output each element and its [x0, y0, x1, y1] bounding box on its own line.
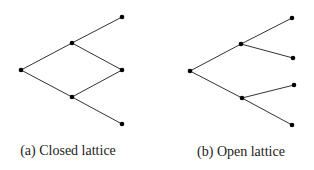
lattice-node [19, 68, 24, 73]
lattice-node [70, 41, 75, 46]
lattice-edge [72, 17, 122, 43]
lattice-node [240, 96, 245, 101]
caption-open-lattice: (b) Open lattice [197, 144, 285, 160]
lattice-edge [242, 98, 292, 125]
lattice-node [292, 83, 297, 88]
lattice-edge [72, 70, 122, 97]
lattice-edge [21, 43, 72, 70]
lattice-node [120, 68, 125, 73]
lattice-edge [241, 18, 292, 44]
lattice-node [120, 15, 125, 20]
lattice-node [291, 56, 296, 61]
lattice-edge [242, 85, 294, 98]
lattice-node [120, 122, 125, 127]
lattice-edge [190, 44, 241, 71]
closed-lattice [19, 15, 125, 127]
lattice-node [290, 123, 295, 128]
lattice-node [188, 69, 193, 74]
lattice-edge [241, 44, 293, 58]
lattice-node [239, 42, 244, 47]
open-lattice [188, 16, 297, 128]
lattice-node [70, 95, 75, 100]
caption-closed-lattice: (a) Closed lattice [20, 143, 116, 159]
lattice-edge [72, 43, 122, 70]
lattice-edge [21, 70, 72, 97]
lattice-node [290, 16, 295, 21]
lattice-edge [72, 97, 122, 124]
lattice-edge [190, 71, 242, 98]
